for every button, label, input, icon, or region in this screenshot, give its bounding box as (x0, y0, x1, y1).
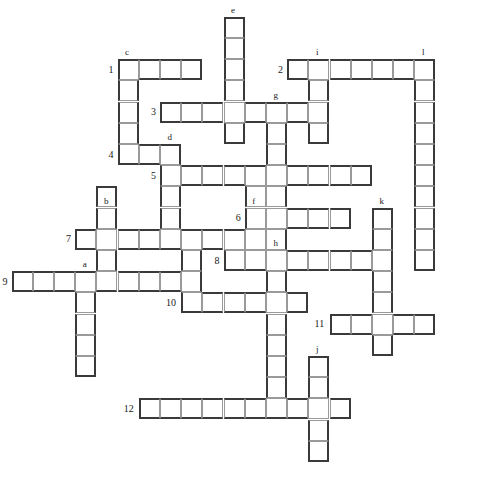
grid-cell[interactable] (351, 165, 372, 186)
grid-cell[interactable] (330, 314, 351, 335)
grid-cell[interactable] (160, 186, 181, 207)
grid-cell[interactable] (308, 250, 329, 271)
grid-cell[interactable] (372, 59, 393, 80)
grid-cell[interactable] (414, 208, 435, 229)
grid-cell[interactable] (245, 250, 266, 271)
grid-cell[interactable] (224, 292, 245, 313)
grid-cell[interactable] (351, 314, 372, 335)
grid-cell[interactable] (118, 123, 139, 144)
grid-cell[interactable] (372, 335, 393, 356)
grid-cell[interactable] (308, 208, 329, 229)
grid-cell[interactable] (181, 250, 202, 271)
grid-cell[interactable] (96, 271, 117, 292)
grid-cell[interactable] (75, 292, 96, 313)
grid-cell[interactable] (287, 250, 308, 271)
grid-cell[interactable] (393, 59, 414, 80)
grid-cell[interactable] (351, 59, 372, 80)
grid-cell[interactable] (414, 229, 435, 250)
grid-cell[interactable] (160, 144, 181, 165)
grid-cell[interactable] (266, 398, 287, 419)
grid-cell[interactable] (118, 102, 139, 123)
grid-cell[interactable] (139, 229, 160, 250)
grid-cell[interactable] (75, 271, 96, 292)
grid-cell[interactable] (266, 144, 287, 165)
grid-cell[interactable] (75, 229, 96, 250)
grid-cell[interactable] (287, 208, 308, 229)
grid-cell[interactable] (75, 356, 96, 377)
grid-cell[interactable] (202, 292, 223, 313)
grid-cell[interactable] (202, 165, 223, 186)
grid-cell[interactable] (266, 292, 287, 313)
grid-cell[interactable] (160, 165, 181, 186)
grid-cell[interactable] (308, 59, 329, 80)
grid-cell[interactable] (266, 165, 287, 186)
grid-cell[interactable] (287, 59, 308, 80)
grid-cell[interactable] (266, 208, 287, 229)
grid-cell[interactable] (118, 229, 139, 250)
grid-cell[interactable] (372, 250, 393, 271)
grid-cell[interactable] (414, 80, 435, 101)
grid-cell[interactable] (308, 102, 329, 123)
grid-cell[interactable] (372, 292, 393, 313)
grid-cell[interactable] (181, 292, 202, 313)
grid-cell[interactable] (245, 292, 266, 313)
grid-cell[interactable] (160, 398, 181, 419)
grid-cell[interactable] (139, 398, 160, 419)
grid-cell[interactable] (224, 17, 245, 38)
grid-cell[interactable] (181, 165, 202, 186)
grid-cell[interactable] (372, 314, 393, 335)
grid-cell[interactable] (181, 229, 202, 250)
grid-cell[interactable] (118, 59, 139, 80)
grid-cell[interactable] (96, 250, 117, 271)
grid-cell[interactable] (202, 102, 223, 123)
grid-cell[interactable] (160, 271, 181, 292)
grid-cell[interactable] (372, 208, 393, 229)
grid-cell[interactable] (224, 250, 245, 271)
grid-cell[interactable] (224, 123, 245, 144)
grid-cell[interactable] (245, 165, 266, 186)
grid-cell[interactable] (245, 398, 266, 419)
grid-cell[interactable] (308, 398, 329, 419)
grid-cell[interactable] (139, 59, 160, 80)
grid-cell[interactable] (330, 165, 351, 186)
grid-cell[interactable] (266, 335, 287, 356)
grid-cell[interactable] (266, 186, 287, 207)
grid-cell[interactable] (330, 59, 351, 80)
grid-cell[interactable] (287, 102, 308, 123)
grid-cell[interactable] (308, 165, 329, 186)
grid-cell[interactable] (224, 59, 245, 80)
grid-cell[interactable] (181, 271, 202, 292)
grid-cell[interactable] (266, 250, 287, 271)
grid-cell[interactable] (224, 398, 245, 419)
grid-cell[interactable] (308, 356, 329, 377)
grid-cell[interactable] (414, 250, 435, 271)
grid-cell[interactable] (224, 38, 245, 59)
grid-cell[interactable] (118, 271, 139, 292)
grid-cell[interactable] (308, 441, 329, 462)
grid-cell[interactable] (308, 123, 329, 144)
grid-cell[interactable] (224, 102, 245, 123)
grid-cell[interactable] (266, 314, 287, 335)
grid-cell[interactable] (96, 208, 117, 229)
grid-cell[interactable] (33, 271, 54, 292)
grid-cell[interactable] (308, 377, 329, 398)
grid-cell[interactable] (414, 144, 435, 165)
grid-cell[interactable] (96, 229, 117, 250)
grid-cell[interactable] (414, 123, 435, 144)
grid-cell[interactable] (75, 314, 96, 335)
grid-cell[interactable] (330, 208, 351, 229)
grid-cell[interactable] (330, 250, 351, 271)
grid-cell[interactable] (414, 314, 435, 335)
grid-cell[interactable] (202, 398, 223, 419)
grid-cell[interactable] (181, 59, 202, 80)
grid-cell[interactable] (287, 398, 308, 419)
grid-cell[interactable] (75, 335, 96, 356)
grid-cell[interactable] (245, 102, 266, 123)
grid-cell[interactable] (414, 165, 435, 186)
grid-cell[interactable] (351, 250, 372, 271)
grid-cell[interactable] (308, 80, 329, 101)
grid-cell[interactable] (181, 102, 202, 123)
grid-cell[interactable] (266, 271, 287, 292)
grid-cell[interactable] (160, 208, 181, 229)
grid-cell[interactable] (202, 229, 223, 250)
